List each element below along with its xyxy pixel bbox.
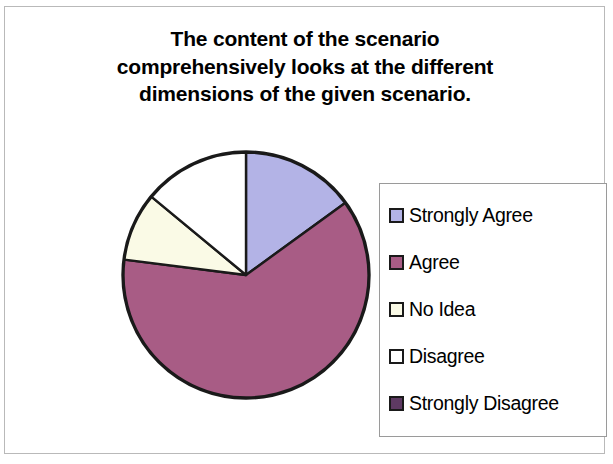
legend-item-agree[interactable]: Agree (389, 239, 606, 286)
legend-swatch-agree (389, 255, 404, 270)
chart-frame: The content of the scenario comprehensiv… (4, 6, 605, 454)
legend-item-no-idea[interactable]: No Idea (389, 286, 606, 333)
legend-label-no-idea: No Idea (409, 298, 475, 321)
legend-swatch-no-idea (389, 302, 404, 317)
legend-item-disagree[interactable]: Disagree (389, 333, 606, 380)
legend-swatch-strongly-disagree (389, 396, 404, 411)
legend-label-agree: Agree (409, 251, 460, 274)
legend-item-strongly-agree[interactable]: Strongly Agree (389, 192, 606, 239)
pie-slices (124, 153, 369, 398)
legend-label-strongly-agree: Strongly Agree (409, 204, 533, 227)
chart-title-line-1: The content of the scenario (45, 25, 565, 53)
legend-swatch-strongly-agree (389, 208, 404, 223)
legend-item-strongly-disagree[interactable]: Strongly Disagree (389, 380, 606, 427)
chart-legend: Strongly Agree Agree No Idea Disagree St… (379, 183, 607, 437)
legend-swatch-disagree (389, 349, 404, 364)
chart-title-line-2: comprehensively looks at the different (45, 53, 565, 81)
legend-label-strongly-disagree: Strongly Disagree (409, 392, 559, 415)
chart-title-line-3: dimensions of the given scenario. (45, 80, 565, 108)
pie-chart-svg (119, 146, 375, 404)
pie-chart (119, 146, 375, 404)
legend-label-disagree: Disagree (409, 345, 485, 368)
chart-title: The content of the scenario comprehensiv… (45, 25, 565, 108)
